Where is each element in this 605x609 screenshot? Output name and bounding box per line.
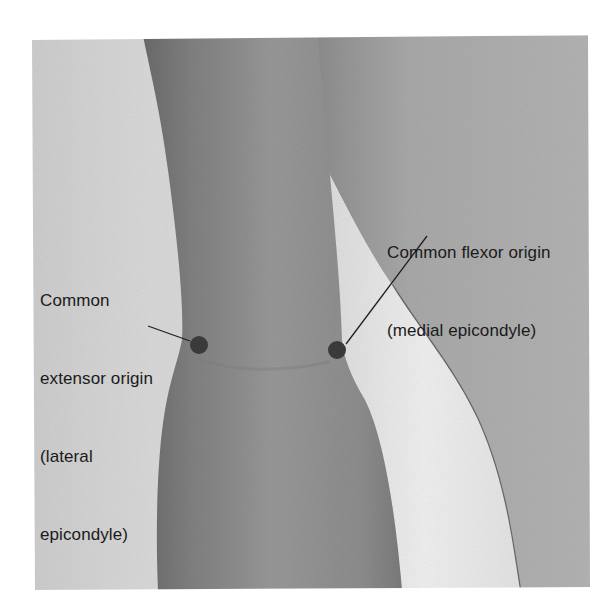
marker-dot-lateral-epicondyle	[190, 336, 208, 354]
elbow-anatomy-figure: Common extensor origin (lateral epicondy…	[0, 0, 605, 609]
label-line: (medial epicondyle)	[387, 318, 551, 344]
label-common-flexor-origin: Common flexor origin (medial epicondyle)	[387, 188, 551, 396]
label-line: Common	[40, 288, 153, 314]
marker-dot-medial-epicondyle	[328, 341, 346, 359]
label-line: Common flexor origin	[387, 240, 551, 266]
label-line: extensor origin	[40, 366, 153, 392]
label-line: (lateral	[40, 444, 153, 470]
label-line: epicondyle)	[40, 522, 153, 548]
label-common-extensor-origin: Common extensor origin (lateral epicondy…	[40, 236, 153, 600]
